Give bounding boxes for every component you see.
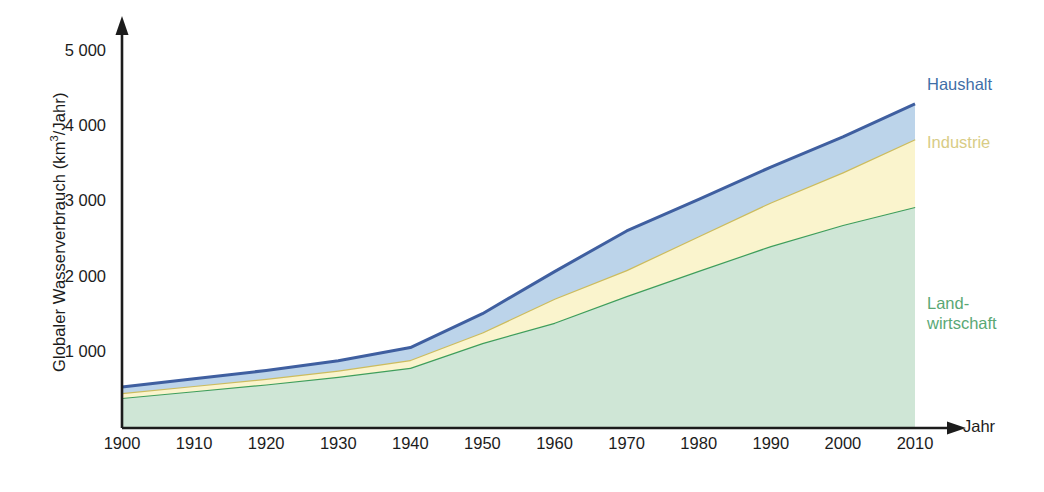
x-tick-label: 1990: [736, 434, 806, 453]
y-tick-label: 5 000: [34, 41, 106, 60]
series-label-industrie: Industrie: [927, 132, 990, 152]
x-tick-label: 1930: [303, 434, 373, 453]
y-axis-title: Globaler Wasserverbrauch (km3/Jahr): [48, 32, 69, 432]
y-tick-label: 2 000: [34, 267, 106, 286]
x-tick-label: 1900: [87, 434, 157, 453]
y-tick-label: 1 000: [34, 342, 106, 361]
x-tick-label: 2000: [808, 434, 878, 453]
series-label-landwirtschaft: Land- wirtschaft: [927, 293, 997, 333]
y-axis-arrowhead: [116, 16, 129, 35]
x-axis-title: Jahr: [963, 417, 995, 436]
x-tick-label: 1940: [375, 434, 445, 453]
x-tick-label: 1970: [592, 434, 662, 453]
chart-plot-area: [0, 0, 1044, 492]
y-tick-label: 4 000: [34, 116, 106, 135]
y-tick-label: 3 000: [34, 191, 106, 210]
x-tick-label: 1960: [520, 434, 590, 453]
x-tick-label: 2010: [880, 434, 950, 453]
stacked-areas-group: [122, 104, 915, 428]
series-label-haushalt: Haushalt: [927, 74, 992, 94]
x-tick-label: 1980: [664, 434, 734, 453]
x-tick-label: 1920: [231, 434, 301, 453]
x-tick-label: 1910: [159, 434, 229, 453]
water-consumption-chart: Globaler Wasserverbrauch (km3/Jahr) Jahr…: [0, 0, 1044, 492]
x-tick-label: 1950: [447, 434, 517, 453]
